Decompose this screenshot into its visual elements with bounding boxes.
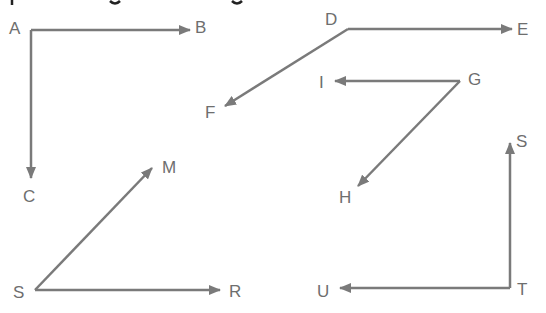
- point-label-e: E: [517, 21, 528, 38]
- point-label-c: C: [23, 188, 35, 205]
- point-label-s2: S: [516, 133, 527, 150]
- ray-df: [225, 29, 348, 106]
- rays-diagram: ABCDEFIGHMSRSUT: [0, 0, 546, 313]
- point-label-a: A: [9, 20, 20, 37]
- point-label-i: I: [319, 74, 324, 91]
- point-label-t: T: [517, 281, 527, 298]
- ray-gh: [358, 81, 460, 186]
- ray-drawing: [0, 0, 546, 313]
- point-label-d: D: [325, 11, 337, 28]
- point-label-f: F: [205, 104, 215, 121]
- point-label-m: M: [162, 159, 176, 176]
- point-label-g: G: [468, 71, 481, 88]
- point-label-r: R: [229, 283, 241, 300]
- point-label-u: U: [317, 283, 329, 300]
- point-label-h: H: [339, 189, 351, 206]
- ray-sm: [35, 168, 152, 290]
- point-label-b: B: [195, 19, 206, 36]
- point-label-s1: S: [13, 284, 24, 301]
